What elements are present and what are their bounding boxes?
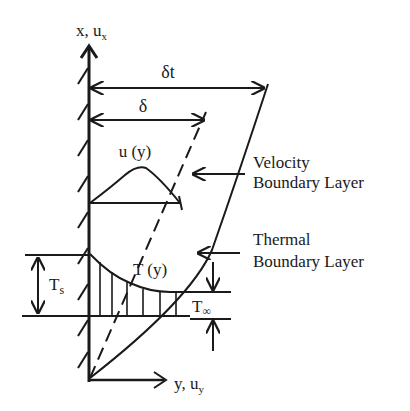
- velocity-bl-label: Velocity Boundary Layer: [253, 153, 364, 192]
- velocity-profile-label: u (y): [119, 142, 152, 161]
- temperature-profile-label: T (y): [133, 260, 167, 279]
- thermal-thickness-label: δt: [161, 62, 174, 82]
- thermal-thickness-dimension: δt: [91, 62, 264, 88]
- surface-temperature-label: Ts: [49, 275, 64, 297]
- y-axis: [89, 372, 166, 388]
- thermal-bl-label: Thermal Boundary Layer: [253, 230, 364, 271]
- surface-temperature-indicator: Ts: [38, 258, 64, 313]
- y-axis-label: y, uy: [174, 374, 204, 395]
- velocity-thickness-label: δ: [139, 96, 147, 116]
- x-axis-label: x, ux: [76, 21, 108, 42]
- wall-hatching: [78, 68, 88, 368]
- wall: [78, 46, 97, 382]
- freestream-temperature-label: T∞: [192, 297, 211, 318]
- velocity-profile: u (y): [90, 142, 182, 210]
- thermal-boundary-layer-curve: [90, 84, 268, 378]
- diagram-svg: x, ux y, uy δt δ u (y) T (y): [0, 0, 410, 411]
- boundary-layer-diagram: x, ux y, uy δt δ u (y) T (y): [0, 0, 410, 411]
- velocity-thickness-dimension: δ: [91, 96, 204, 120]
